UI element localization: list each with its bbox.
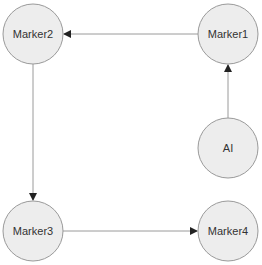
- flow-diagram: Marker2 Marker1 AI Marker3 Marker4: [0, 0, 262, 265]
- node-label: Marker3: [13, 225, 53, 237]
- node-marker1[interactable]: Marker1: [198, 4, 258, 64]
- node-label: Marker2: [13, 28, 53, 40]
- node-marker4[interactable]: Marker4: [198, 201, 258, 261]
- node-label: Marker1: [208, 28, 248, 40]
- node-label: AI: [223, 142, 233, 154]
- node-ai[interactable]: AI: [198, 118, 258, 178]
- node-label: Marker4: [208, 225, 248, 237]
- node-marker2[interactable]: Marker2: [3, 4, 63, 64]
- node-marker3[interactable]: Marker3: [3, 201, 63, 261]
